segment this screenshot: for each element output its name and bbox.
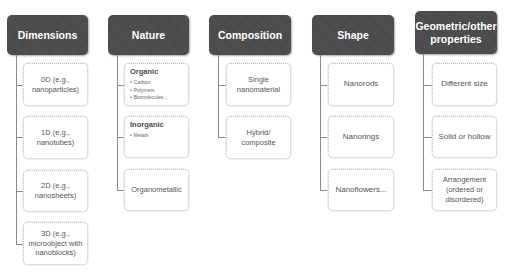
- connector-nature-trunk: [117, 55, 118, 191]
- header-shape: Shape: [312, 15, 394, 55]
- box-3d-label: 3D (e.g., microobject with nanoblocks): [27, 229, 84, 258]
- box-organic: Organic Carbon Polymers Biomolecules...: [124, 63, 189, 106]
- box-organometallic: Organometallic: [124, 169, 189, 211]
- box-hybrid-composite: Hybrid/ composite: [226, 116, 291, 159]
- header-dimensions-label: Dimensions: [18, 29, 78, 41]
- connector-geometric-1: [423, 137, 432, 138]
- bullet-carbon: Carbon: [130, 79, 183, 87]
- box-single-nanomaterial-label: Single nanomaterial: [230, 75, 287, 95]
- connector-nature-1: [117, 137, 124, 138]
- box-inorganic: Inorganic Metals: [124, 116, 189, 158]
- box-nanorings-label: Nanorings: [343, 132, 379, 142]
- box-single-nanomaterial: Single nanomaterial: [226, 63, 291, 106]
- header-nature: Nature: [108, 15, 189, 55]
- header-composition: Composition: [209, 15, 291, 55]
- connector-dimensions-2: [16, 191, 23, 192]
- box-nanorods-label: Nanorods: [344, 79, 379, 89]
- connector-dimensions-3: [16, 244, 23, 245]
- connector-geometric-trunk: [423, 54, 424, 191]
- box-different-size: Different size: [432, 63, 497, 106]
- connector-shape-trunk: [320, 55, 321, 191]
- header-geometric-properties-label: Geometric/other properties: [415, 20, 497, 44]
- connector-composition-0: [218, 85, 226, 86]
- bullet-metals: Metals: [130, 132, 183, 140]
- header-composition-label: Composition: [218, 29, 282, 41]
- box-arrangement-label: Arrangement (ordered or disordered): [436, 175, 493, 204]
- box-1d-label: 1D (e.g., nanotubes): [27, 128, 84, 148]
- box-organometallic-label: Organometallic: [131, 185, 181, 195]
- connector-composition-trunk: [218, 55, 219, 138]
- box-nanoflowers-label: Nanoflowers...: [335, 185, 386, 195]
- box-2d: 2D (e.g., nanosheets): [23, 170, 88, 212]
- box-2d-label: 2D (e.g., nanosheets): [27, 181, 84, 201]
- box-different-size-label: Different size: [441, 79, 488, 89]
- box-1d: 1D (e.g., nanotubes): [23, 116, 88, 159]
- connector-geometric-2: [423, 190, 432, 191]
- connector-geometric-0: [423, 85, 432, 86]
- connector-dimensions-0: [16, 85, 23, 86]
- bullet-biomolecules: Biomolecules...: [130, 94, 183, 102]
- box-0d-label: 0D (e.g., nanoparticles): [27, 75, 84, 95]
- header-shape-label: Shape: [337, 29, 369, 41]
- box-solid-or-hollow: Solid or hollow: [432, 116, 497, 158]
- box-arrangement: Arrangement (ordered or disordered): [432, 169, 497, 211]
- box-3d: 3D (e.g., microobject with nanoblocks): [23, 222, 88, 265]
- inorganic-bullet-list: Metals: [130, 132, 183, 140]
- header-dimensions: Dimensions: [7, 15, 88, 55]
- connector-nature-0: [117, 85, 124, 86]
- box-organic-title: Organic: [130, 67, 183, 77]
- connector-dimensions-1: [16, 137, 23, 138]
- connector-dimensions-trunk: [16, 55, 17, 245]
- connector-shape-2: [320, 190, 328, 191]
- box-solid-or-hollow-label: Solid or hollow: [438, 132, 490, 142]
- header-nature-label: Nature: [132, 29, 165, 41]
- box-hybrid-composite-label: Hybrid/ composite: [230, 128, 287, 148]
- connector-shape-0: [320, 85, 328, 86]
- box-0d: 0D (e.g., nanoparticles): [23, 63, 88, 106]
- connector-shape-1: [320, 137, 328, 138]
- connector-composition-1: [218, 137, 226, 138]
- organic-bullet-list: Carbon Polymers Biomolecules...: [130, 79, 183, 102]
- box-inorganic-title: Inorganic: [130, 120, 183, 130]
- box-nanorods: Nanorods: [328, 63, 394, 106]
- box-nanorings: Nanorings: [328, 116, 394, 158]
- connector-nature-2: [117, 190, 124, 191]
- bullet-polymers: Polymers: [130, 87, 183, 95]
- header-geometric-properties: Geometric/other properties: [415, 11, 497, 54]
- box-nanoflowers: Nanoflowers...: [328, 169, 394, 211]
